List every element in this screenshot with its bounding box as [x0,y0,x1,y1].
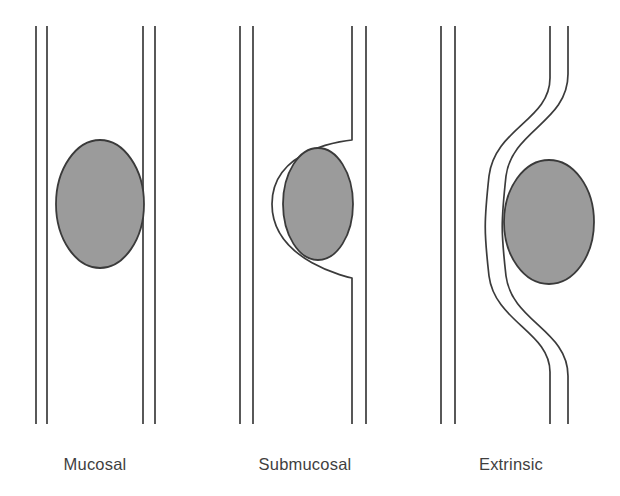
panel-label-submucosal: Submucosal [259,455,352,473]
panel-label-mucosal: Mucosal [64,455,127,473]
panel-label-extrinsic: Extrinsic [479,455,543,473]
mass-extrinsic [504,160,594,284]
diagram-canvas: Mucosal Submucosal Extrinsic [0,0,620,496]
panel-extrinsic: Extrinsic [441,26,594,473]
lesion-location-diagram: Mucosal Submucosal Extrinsic [0,0,620,496]
mass-mucosal [56,140,144,268]
mass-submucosal [283,148,353,260]
panel-mucosal: Mucosal [36,26,155,473]
panel-submucosal: Submucosal [240,26,366,473]
